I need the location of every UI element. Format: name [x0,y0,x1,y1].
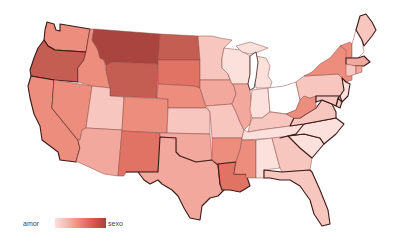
state-KS[interactable] [167,108,210,134]
state-ND[interactable] [158,34,200,60]
state-RI[interactable] [356,66,362,74]
state-FL[interactable] [264,170,330,226]
state-NM[interactable] [118,131,160,176]
state-CO[interactable] [122,97,168,133]
state-WY[interactable] [106,62,158,98]
state-OH[interactable] [268,82,300,114]
state-AZ[interactable] [76,128,122,176]
state-IN[interactable] [250,88,270,118]
state-CT[interactable] [346,64,356,76]
state-SD[interactable] [158,60,200,88]
state-IA[interactable] [200,80,236,106]
us-choropleth-map [0,0,401,243]
